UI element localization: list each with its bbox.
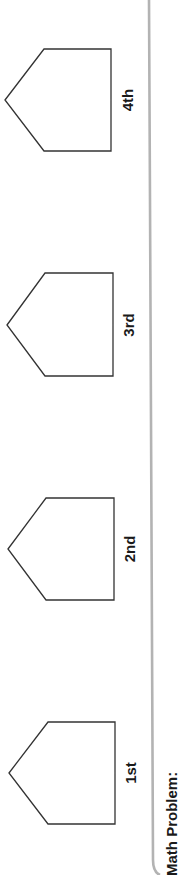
worksheet-page: 4th 3rd 2nd 1st Math Problem: — [0, 0, 191, 875]
ordinal-label-4th: 4th — [119, 89, 136, 112]
ordinal-label-2nd: 2nd — [121, 536, 138, 563]
pentagon-1st-icon — [9, 722, 115, 824]
pentagon-3rd-icon — [7, 273, 113, 376]
ordinal-label-3rd: 3rd — [120, 313, 137, 336]
ordinal-label-1st: 1st — [122, 762, 139, 784]
math-problem-title: Math Problem: — [163, 772, 180, 875]
pentagon-2nd-icon — [8, 498, 114, 600]
pentagon-4th-icon — [5, 49, 111, 151]
section-divider — [149, 0, 160, 875]
worksheet-drawing — [0, 0, 191, 875]
